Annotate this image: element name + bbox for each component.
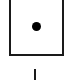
dot-icon — [32, 22, 41, 31]
connector-line — [34, 69, 36, 80]
diagram-canvas — [0, 0, 67, 80]
